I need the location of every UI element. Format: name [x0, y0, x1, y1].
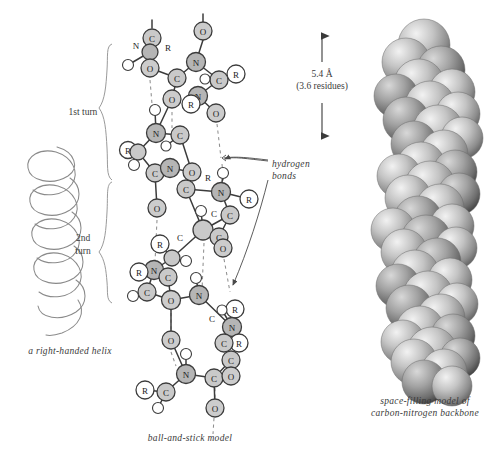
alpha-helix-figure: CNROCONRCONRONCRCNORCNROCCCCRONRCCNORCNO… — [0, 0, 502, 455]
atom-label-c: C — [152, 169, 158, 179]
atom-label-c: C — [165, 273, 171, 283]
helix-caption: a right-handed helix — [10, 345, 130, 357]
atom-hydrogen — [218, 168, 229, 179]
turn-label-1: 1st turn — [60, 106, 106, 119]
atom-label-o: O — [228, 372, 235, 382]
atom-label-r: R — [165, 43, 171, 53]
atom-label-r: R — [142, 386, 148, 396]
atom-label-r: R — [232, 305, 238, 315]
atom-hydrogen — [123, 60, 134, 71]
atom-hydrogen — [181, 349, 192, 360]
atom-nitrogen — [142, 44, 158, 60]
atom-label-r: R — [157, 240, 163, 250]
atom-label-c: C — [221, 339, 227, 349]
atom-label-n: N — [193, 58, 200, 68]
atom-carbon — [164, 250, 180, 266]
turn-label-1-line1: 1st turn — [60, 106, 106, 119]
atom-label-r: R — [246, 195, 252, 205]
atom-label-c: C — [177, 233, 183, 243]
atom-label-c: C — [163, 388, 169, 398]
atom-layer: CNROCONRCONRONCRCNORCNROCCCCRONRCCNORCNO… — [120, 22, 259, 417]
figure-canvas: CNROCONRCONRONCRCNORCNROCCCCRONRCCNORCNO… — [0, 0, 502, 455]
atom-label-o: O — [220, 244, 227, 254]
atom-label-n: N — [196, 291, 203, 301]
space-filling-caption-line1: space-filling model of — [350, 395, 500, 407]
atom-hydrogen — [150, 105, 161, 116]
atom-hydrogen — [129, 160, 140, 171]
atom-hydrogen — [196, 206, 207, 217]
atom-label-o: O — [213, 109, 220, 119]
atom-label-c: C — [174, 74, 180, 84]
turn-label-2-line2: turn — [62, 245, 104, 258]
atom-label-r: R — [188, 100, 194, 110]
helix-caption-text: a right-handed helix — [28, 346, 112, 356]
atom-label-c: C — [216, 76, 222, 86]
space-filling-model — [371, 19, 483, 406]
turn-label-2: 2nd turn — [62, 232, 104, 257]
atom-hydrogen — [217, 305, 227, 315]
atom-label-r: R — [205, 173, 211, 183]
atom-label-o: O — [200, 27, 207, 37]
atom-label-c: C — [183, 185, 189, 195]
atom-label-c: C — [149, 34, 155, 44]
hydrogen-bonds-line2: bonds — [272, 170, 352, 182]
atom-label-n: N — [183, 370, 190, 380]
atom-label-c: C — [144, 288, 150, 298]
height-measurement-label: 5.4 Å (3.6 residues) — [286, 68, 358, 92]
space-filling-caption: space-filling model of carbon-nitrogen b… — [350, 395, 500, 419]
atom-label-r: R — [236, 339, 242, 349]
atom-hydrogen — [181, 256, 192, 267]
hydrogen-bonds-annotation: hydrogen bonds — [272, 158, 352, 182]
space-filling-caption-line2: carbon-nitrogen backbone — [350, 407, 500, 419]
atom-label-o: O — [169, 95, 176, 105]
atom-hydrogen — [128, 291, 139, 302]
atom-hydrogen — [161, 141, 171, 151]
atom-hydrogen — [200, 74, 210, 84]
atom-label-c: C — [211, 374, 217, 384]
atom-label-c: C — [177, 131, 183, 141]
turn-label-2-line1: 2nd — [62, 232, 104, 245]
atom-label-o: O — [147, 64, 154, 74]
ball-and-stick-caption-text: ball-and-stick model — [148, 433, 232, 443]
atom-label-c: C — [211, 209, 217, 219]
atom-label-o: O — [212, 404, 219, 414]
measurement-value: 5.4 Å — [286, 68, 358, 80]
atom-hydrogen — [191, 273, 202, 284]
atom-label-o: O — [154, 204, 161, 214]
atom-label-n: N — [167, 164, 174, 174]
atom-label-n: N — [218, 188, 225, 198]
hydrogen-bonds-line1: hydrogen — [272, 158, 352, 170]
atom-label-n: N — [151, 266, 158, 276]
atom-label-o: O — [168, 336, 175, 346]
atom-label-r: R — [233, 70, 239, 80]
atom-hydrogen — [153, 403, 164, 414]
atom-label-c: C — [228, 356, 234, 366]
atom-label-o: O — [189, 168, 196, 178]
ball-and-stick-caption: ball-and-stick model — [110, 432, 270, 444]
atom-label-o: O — [168, 296, 175, 306]
turn-braces — [99, 44, 112, 303]
atom-label-n: N — [229, 323, 236, 333]
atom-label-n: N — [153, 129, 160, 139]
atom-label-n: N — [133, 41, 140, 51]
atom-carbon — [130, 144, 146, 160]
atom-label-r: R — [136, 268, 142, 278]
atom-label-c: C — [227, 211, 233, 221]
atom-label-c: C — [209, 314, 215, 324]
measurement-detail: (3.6 residues) — [286, 80, 358, 92]
